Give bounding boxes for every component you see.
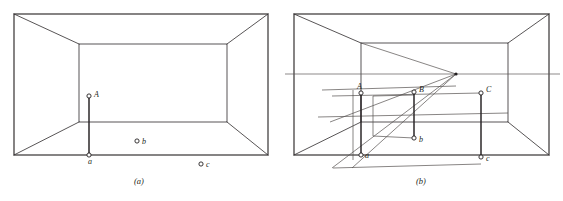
panel-a-point-b — [135, 139, 139, 143]
panel-b-rect-b-bottom — [373, 136, 414, 138]
panel-b-label-B: B — [419, 85, 424, 94]
panel-a-point-c — [199, 162, 203, 166]
panel-a-point-A — [87, 94, 91, 98]
panel-a-label-b: b — [142, 137, 146, 146]
panel-b-point-C — [479, 91, 483, 95]
panel-a-outer-wall — [14, 14, 268, 155]
panel-b: A a B b C c (b) — [285, 14, 560, 186]
panel-b-label-C: C — [486, 85, 492, 94]
panel-b-point-A — [359, 91, 363, 95]
panel-b-caption: (b) — [416, 176, 426, 186]
panel-b-label-a: a — [365, 151, 369, 160]
panel-a-corner-edge-top-left — [14, 14, 79, 44]
panel-a: A a b c (a) — [14, 14, 268, 186]
panel-a-label-a: a — [88, 157, 92, 166]
panel-a-corner-edge-top-right — [227, 14, 268, 44]
panel-b-label-c: c — [486, 154, 490, 163]
panel-b-corner-edge-bottom-right — [508, 122, 549, 155]
panel-b-corner-edge-top-right — [508, 14, 549, 43]
panel-a-corner-edge-bottom-left — [14, 122, 79, 155]
panel-b-point-a — [359, 153, 363, 157]
panel-a-back-wall — [79, 44, 227, 122]
panel-b-corner-edge-bottom-left — [294, 122, 361, 155]
panel-b-ray-vp-inner-top-left — [361, 43, 456, 74]
panel-a-label-c: c — [206, 160, 210, 169]
panel-b-point-c — [479, 155, 483, 159]
panel-b-transfer-line-top-B — [332, 93, 481, 96]
panel-b-corner-edge-top-left — [294, 14, 361, 43]
panel-a-corner-edge-bottom-right — [227, 122, 268, 155]
perspective-figure: A a b c (a) — [0, 0, 563, 201]
panel-a-caption: (a) — [134, 176, 144, 186]
panel-b-transfer-line-mid — [318, 113, 508, 117]
panel-b-transfer-line-low — [333, 164, 481, 168]
panel-b-label-b: b — [419, 135, 423, 144]
panel-b-label-A: A — [356, 82, 362, 91]
panel-a-label-A: A — [93, 90, 99, 99]
panel-b-point-B — [412, 90, 416, 94]
panel-b-vanishing-point — [454, 72, 457, 75]
panel-b-point-b — [412, 136, 416, 140]
figure-canvas: A a b c (a) — [0, 0, 563, 201]
